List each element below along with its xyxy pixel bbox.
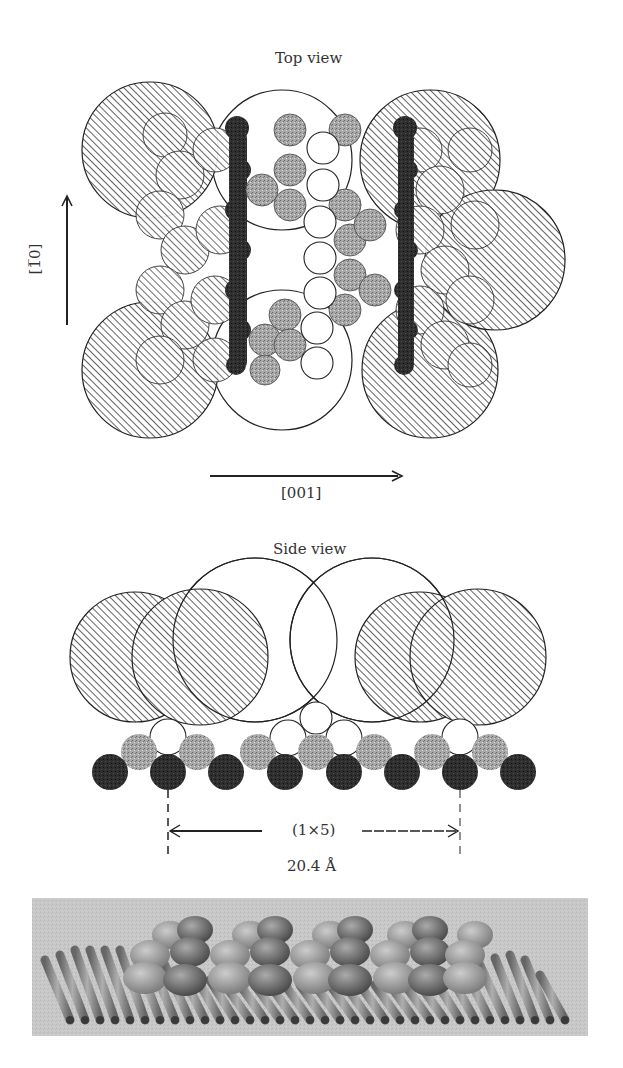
top-view-diagram [62, 82, 565, 481]
figure-canvas [0, 0, 623, 1068]
side-view-title: Side view [273, 540, 346, 558]
axis-arrow-horizontal [210, 471, 402, 481]
axis-arrow-vertical [62, 196, 72, 325]
side-view-diagram [70, 558, 546, 858]
surface-3d-rendering [32, 898, 588, 1036]
axis-label-vertical: [1̅0] [26, 244, 44, 275]
axis-label-horizontal: [001] [281, 484, 321, 502]
top-view-title: Top view [275, 49, 342, 67]
periodicity-label: (1×5) [292, 821, 335, 839]
distance-label: 20.4 Å [287, 857, 336, 875]
